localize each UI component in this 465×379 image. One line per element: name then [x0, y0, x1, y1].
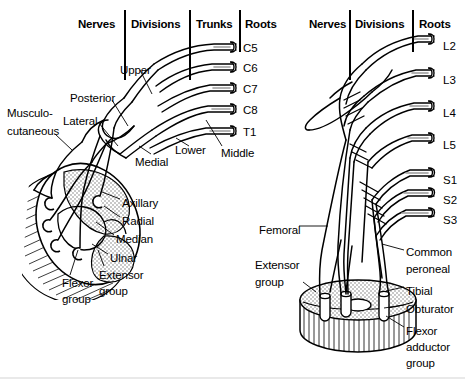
divider-trunks-roots-left: [239, 10, 241, 52]
divider-divisions-trunks-left: [189, 10, 191, 80]
root-label-s3: S3: [443, 214, 457, 226]
root-label-c6: C6: [243, 62, 258, 74]
muscle-label-flexor-group-line1: Flexor: [62, 277, 93, 289]
muscle-label-flexor-group-line2: group: [62, 293, 91, 305]
muscle-label-extensor-group-line1: Extensor: [99, 269, 144, 281]
divider-nerves-divisions-right: [349, 10, 351, 80]
nerve-label-common-peroneal-line2: peroneal: [406, 263, 450, 275]
nerve-label-femoral: Femoral: [259, 224, 300, 236]
nerve-label-ulnar: Ulnar: [110, 252, 137, 264]
header-divisions-left: Divisions: [131, 18, 180, 30]
figure-canvas: Nerves Divisions Trunks Roots C5 C6 C7 C…: [0, 0, 465, 379]
header-nerves-right: Nerves: [309, 18, 346, 30]
root-label-l3: L3: [443, 74, 456, 86]
header-roots-right: Roots: [419, 18, 451, 30]
header-divisions-right: Divisions: [355, 18, 404, 30]
nerve-label-obturator: Obturator: [406, 303, 454, 315]
root-label-s2: S2: [443, 194, 457, 206]
muscle-label-extensor-group-right-line2: group: [255, 276, 284, 288]
nerve-label-median: Median: [116, 233, 153, 245]
division-label-medial: Medial: [135, 156, 168, 168]
root-label-l5: L5: [443, 139, 456, 151]
nerve-label-common-peroneal-line1: Common: [406, 246, 452, 258]
header-trunks-left: Trunks: [196, 18, 233, 30]
nerve-label-radial: Radial: [122, 215, 154, 227]
divider-divisions-roots-right: [412, 10, 414, 52]
nerve-label-axillary: Axillary: [122, 197, 158, 209]
nerve-label-musculocutaneous-line1: Musculo-: [7, 107, 53, 119]
muscle-label-flexor-adductor-line2: adductor: [406, 341, 450, 353]
root-label-s1: S1: [443, 174, 457, 186]
root-label-c5: C5: [243, 42, 258, 54]
header-nerves-left: Nerves: [78, 18, 115, 30]
muscle-label-flexor-adductor-line1: Flexor: [406, 325, 437, 337]
trunk-label-middle: Middle: [221, 147, 254, 159]
nerve-label-musculocutaneous-line2: cutaneous: [7, 125, 59, 137]
root-label-l2: L2: [443, 40, 456, 52]
root-label-c8: C8: [243, 104, 258, 116]
division-label-posterior: Posterior: [70, 92, 115, 104]
root-label-c7: C7: [243, 83, 258, 95]
root-label-l4: L4: [443, 107, 456, 119]
header-roots-left: Roots: [245, 18, 277, 30]
root-label-t1: T1: [243, 126, 256, 138]
division-label-lateral: Lateral: [63, 115, 97, 127]
leg-cross-section: [300, 280, 416, 355]
trunk-label-upper: Upper: [120, 64, 151, 76]
muscle-label-flexor-adductor-line3: group: [406, 357, 435, 369]
trunk-label-lower: Lower: [175, 144, 206, 156]
nerve-label-tibial: Tibial: [406, 285, 432, 297]
muscle-label-extensor-group-right-line1: Extensor: [255, 259, 300, 271]
muscle-label-extensor-group-line2: group: [99, 285, 128, 297]
plexus-artwork: [0, 0, 465, 379]
